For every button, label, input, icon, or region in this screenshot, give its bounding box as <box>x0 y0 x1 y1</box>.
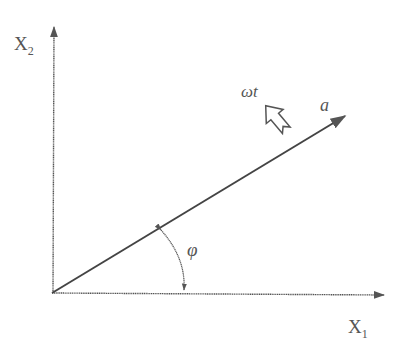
angle-arc <box>161 230 184 290</box>
x1-axis <box>52 293 384 295</box>
vector-a <box>52 116 345 293</box>
phi-label: φ <box>187 239 198 260</box>
omega-t-label: ωt <box>241 82 259 101</box>
phasor-diagram: X2 X1 a ωt φ <box>0 0 396 344</box>
x2-axis-label: X2 <box>14 33 34 58</box>
vector-a-label: a <box>320 95 329 115</box>
x2-axis <box>53 27 54 293</box>
rotation-arrow-icon <box>257 99 294 138</box>
x1-axis-label: X1 <box>348 316 368 341</box>
